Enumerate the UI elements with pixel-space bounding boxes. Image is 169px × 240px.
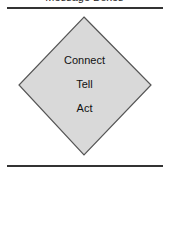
label-act: Act xyxy=(0,102,169,114)
label-tell: Tell xyxy=(0,78,169,90)
label-connect: Connect xyxy=(0,54,169,66)
bottom-rule xyxy=(7,165,163,167)
